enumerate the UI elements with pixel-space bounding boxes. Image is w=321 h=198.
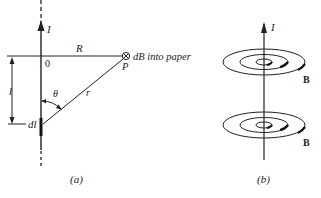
- current-label-b: I: [270, 21, 276, 33]
- element-label: dl: [28, 118, 37, 130]
- caption-b: (b): [257, 173, 270, 186]
- length-label: l: [9, 85, 12, 97]
- field-arrow-top-inner-icon: [267, 62, 272, 65]
- dimension-arrow-bottom-icon: [10, 117, 15, 124]
- angle-label: θ: [53, 88, 58, 99]
- distance-label: R: [75, 42, 83, 54]
- field-label: dB into paper: [133, 51, 192, 62]
- dimension-arrow-top-icon: [10, 57, 15, 64]
- current-label-a: I: [46, 23, 52, 35]
- radius-label: r: [86, 87, 90, 98]
- current-arrow-b-icon: [261, 22, 267, 33]
- field-arrow-top-mid-icon: [280, 62, 288, 67]
- field-label-b-top: B: [303, 74, 310, 85]
- field-arrow-bottom-outer-icon: [298, 127, 305, 133]
- origin-label: 0: [45, 58, 50, 69]
- field-arrow-bottom-inner-icon: [267, 125, 272, 128]
- field-arrow-bottom-mid-icon: [280, 125, 288, 130]
- figure-a: I 0 R dB into paper P l dl θ r (a): [7, 0, 192, 186]
- figure-b: I B B (b): [223, 21, 310, 186]
- caption-a: (a): [70, 173, 83, 186]
- point-label: P: [121, 61, 129, 72]
- field-label-text: dB into paper: [133, 51, 192, 62]
- field-arrow-top-outer-icon: [298, 64, 305, 70]
- diagram-canvas: I 0 R dB into paper P l dl θ r (a) I B: [0, 0, 321, 198]
- field-label-b-bottom: B: [303, 137, 310, 148]
- current-arrow-icon: [38, 20, 45, 31]
- angle-arrow-left-icon: [42, 99, 47, 104]
- into-paper-icon: [122, 52, 129, 59]
